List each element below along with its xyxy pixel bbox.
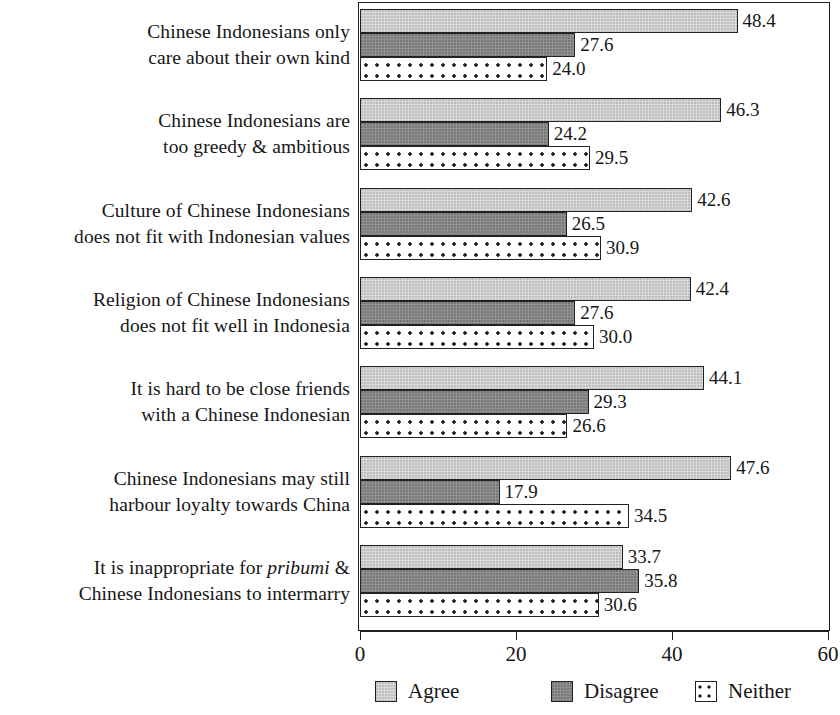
legend-item-neither[interactable]: Neither bbox=[695, 676, 791, 706]
bar-value-label: 29.5 bbox=[590, 146, 628, 170]
bar-neither-2 bbox=[360, 146, 590, 170]
category-label-6: Chinese Indonesians may stillharbour loy… bbox=[0, 466, 350, 518]
legend-label: Disagree bbox=[584, 677, 659, 705]
bar-value-label: 17.9 bbox=[500, 480, 538, 504]
bar-disagree-2 bbox=[360, 122, 549, 146]
bar-value-label: 33.7 bbox=[623, 545, 661, 569]
x-tick-60 bbox=[828, 631, 829, 640]
x-tick-label-0: 0 bbox=[355, 641, 366, 667]
category-axis-labels: Chinese Indonesians onlycare about their… bbox=[0, 0, 350, 632]
bar-neither-7 bbox=[360, 593, 599, 617]
survey-bar-chart: Chinese Indonesians onlycare about their… bbox=[0, 0, 840, 715]
legend-item-agree[interactable]: Agree bbox=[375, 676, 459, 706]
bar-value-label: 27.6 bbox=[575, 33, 613, 57]
legend-swatch-neither-icon bbox=[695, 681, 717, 702]
bar-agree-1 bbox=[360, 9, 738, 33]
bar-agree-3 bbox=[360, 188, 692, 212]
legend-label: Agree bbox=[408, 677, 459, 705]
bar-agree-5 bbox=[360, 366, 704, 390]
x-tick-0 bbox=[360, 631, 361, 640]
bar-neither-4 bbox=[360, 325, 594, 349]
x-axis-line bbox=[360, 631, 829, 632]
bar-value-label: 24.0 bbox=[547, 57, 585, 81]
legend-swatch-disagree-icon bbox=[551, 681, 573, 702]
bar-disagree-3 bbox=[360, 212, 567, 236]
bar-value-label: 29.3 bbox=[589, 390, 627, 414]
x-tick-40 bbox=[672, 631, 673, 640]
bar-value-label: 35.8 bbox=[639, 569, 677, 593]
bar-value-label: 34.5 bbox=[629, 504, 667, 528]
legend-label: Neither bbox=[728, 677, 791, 705]
bar-value-label: 26.6 bbox=[567, 414, 605, 438]
bar-neither-5 bbox=[360, 414, 567, 438]
bar-neither-6 bbox=[360, 504, 629, 528]
bar-neither-3 bbox=[360, 236, 601, 260]
bar-agree-2 bbox=[360, 98, 721, 122]
bar-value-label: 26.5 bbox=[567, 212, 605, 236]
bar-agree-7 bbox=[360, 545, 623, 569]
bar-value-label: 47.6 bbox=[731, 456, 769, 480]
bar-neither-1 bbox=[360, 57, 547, 81]
bar-agree-6 bbox=[360, 456, 731, 480]
category-label-4: Religion of Chinese Indonesiansdoes not … bbox=[0, 287, 350, 339]
bar-value-label: 30.0 bbox=[594, 325, 632, 349]
x-tick-label-40: 40 bbox=[662, 641, 683, 667]
bar-value-label: 48.4 bbox=[738, 9, 776, 33]
bar-disagree-6 bbox=[360, 480, 500, 504]
plot-area: 48.427.624.046.324.229.542.626.530.942.4… bbox=[360, 2, 828, 631]
category-label-7: It is inappropriate for pribumi &Chinese… bbox=[0, 555, 350, 607]
chart-legend: AgreeDisagreeNeither bbox=[0, 676, 840, 712]
bar-value-label: 46.3 bbox=[721, 98, 759, 122]
x-tick-label-60: 60 bbox=[818, 641, 839, 667]
bar-value-label: 30.9 bbox=[601, 236, 639, 260]
category-label-1: Chinese Indonesians onlycare about their… bbox=[0, 19, 350, 71]
x-tick-label-20: 20 bbox=[506, 641, 527, 667]
bar-agree-4 bbox=[360, 277, 691, 301]
x-tick-20 bbox=[516, 631, 517, 640]
bar-disagree-1 bbox=[360, 33, 575, 57]
legend-item-disagree[interactable]: Disagree bbox=[551, 676, 659, 706]
legend-swatch-agree-icon bbox=[375, 681, 397, 702]
bar-value-label: 42.6 bbox=[692, 188, 730, 212]
category-label-2: Chinese Indonesians aretoo greedy & ambi… bbox=[0, 108, 350, 160]
category-label-5: It is hard to be close friendswith a Chi… bbox=[0, 376, 350, 428]
bar-value-label: 27.6 bbox=[575, 301, 613, 325]
bar-value-label: 44.1 bbox=[704, 366, 742, 390]
bar-value-label: 24.2 bbox=[549, 122, 587, 146]
bar-disagree-4 bbox=[360, 301, 575, 325]
bar-disagree-7 bbox=[360, 569, 639, 593]
bar-disagree-5 bbox=[360, 390, 589, 414]
category-label-3: Culture of Chinese Indonesiansdoes not f… bbox=[0, 198, 350, 250]
bar-value-label: 30.6 bbox=[599, 593, 637, 617]
bar-value-label: 42.4 bbox=[691, 277, 729, 301]
